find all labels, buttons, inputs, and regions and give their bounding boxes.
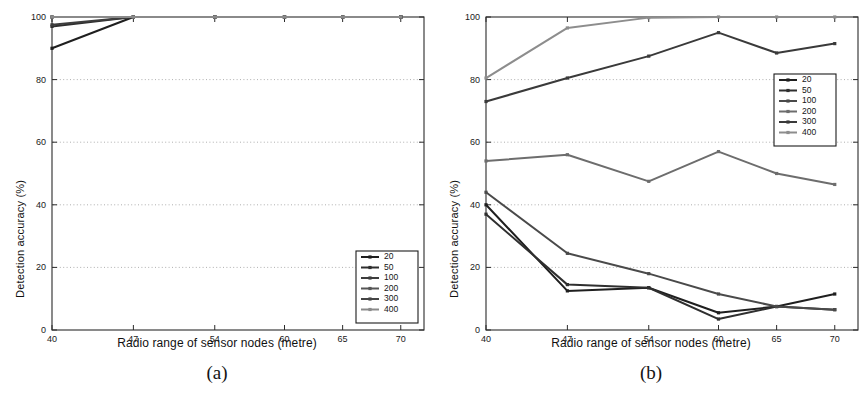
series-marker-200 (566, 153, 569, 156)
series-marker-300 (566, 76, 569, 79)
series-marker-400 (132, 15, 135, 18)
series-marker-100 (484, 191, 487, 194)
figure-sheet: 0204060801004047546065702050100200300400… (0, 0, 868, 410)
panel-a-y-axis-label: Detection accuracy (%) (14, 180, 26, 298)
y-tick-label: 40 (470, 200, 480, 210)
series-line-400 (486, 17, 835, 78)
legend-marker-100 (368, 276, 371, 279)
panel-a-caption: (a) (0, 362, 434, 384)
series-marker-400 (399, 15, 402, 18)
y-tick-label: 80 (36, 75, 46, 85)
y-tick-label: 20 (470, 262, 480, 272)
legend-marker-400 (786, 131, 789, 134)
series-marker-400 (833, 15, 836, 18)
panel-a-chart: 0204060801004047546065702050100200300400 (0, 0, 434, 350)
legend-label-50: 50 (802, 85, 812, 95)
panel-a-plot-area: 0204060801004047546065702050100200300400 (0, 0, 434, 350)
series-marker-200 (775, 172, 778, 175)
legend-marker-50 (786, 89, 789, 92)
series-marker-50 (717, 317, 720, 320)
series-marker-20 (484, 203, 487, 206)
y-tick-label: 0 (41, 325, 46, 335)
series-marker-100 (50, 23, 53, 26)
y-tick-label: 80 (470, 75, 480, 85)
legend-label-20: 20 (384, 251, 394, 261)
y-tick-label: 40 (36, 200, 46, 210)
legend-marker-200 (368, 287, 371, 290)
legend-label-50: 50 (384, 262, 394, 272)
series-marker-100 (566, 252, 569, 255)
series-marker-100 (647, 272, 650, 275)
series-marker-200 (833, 183, 836, 186)
y-tick-label: 20 (36, 262, 46, 272)
y-tick-label: 0 (475, 325, 480, 335)
legend-marker-50 (368, 266, 371, 269)
series-line-20 (52, 17, 401, 48)
legend-label-200: 200 (802, 106, 816, 116)
series-marker-100 (833, 308, 836, 311)
series-marker-100 (775, 305, 778, 308)
legend-label-20: 20 (802, 74, 812, 84)
panel-b: 0204060801004047546065702050100200300400… (434, 0, 868, 410)
legend-marker-300 (786, 120, 789, 123)
series-marker-400 (566, 26, 569, 29)
panel-b-y-axis-label: Detection accuracy (%) (448, 180, 460, 298)
panel-a: 0204060801004047546065702050100200300400… (0, 0, 434, 410)
series-marker-200 (484, 159, 487, 162)
series-marker-20 (50, 47, 53, 50)
series-marker-400 (717, 15, 720, 18)
legend-label-100: 100 (802, 95, 816, 105)
legend-marker-400 (368, 308, 371, 311)
legend-label-400: 400 (802, 127, 816, 137)
series-marker-200 (647, 180, 650, 183)
series-line-50 (486, 214, 835, 319)
series-marker-200 (717, 150, 720, 153)
series-marker-300 (647, 55, 650, 58)
legend-label-100: 100 (384, 272, 398, 282)
series-marker-300 (775, 51, 778, 54)
series-marker-400 (213, 15, 216, 18)
series-marker-300 (833, 42, 836, 45)
series-marker-20 (566, 289, 569, 292)
legend[interactable]: 2050100200300400 (774, 74, 836, 146)
series-marker-400 (484, 76, 487, 79)
y-tick-label: 100 (31, 12, 46, 22)
legend-marker-300 (368, 297, 371, 300)
panel-b-chart: 0204060801004047546065702050100200300400 (434, 0, 868, 350)
y-tick-label: 60 (470, 137, 480, 147)
legend-label-400: 400 (384, 304, 398, 314)
series-marker-50 (566, 283, 569, 286)
series-marker-400 (341, 15, 344, 18)
series-marker-300 (484, 100, 487, 103)
series-marker-400 (775, 15, 778, 18)
legend-marker-200 (786, 110, 789, 113)
series-marker-400 (283, 15, 286, 18)
panel-b-x-axis-label: Radio range of sensor nodes (metre) (434, 336, 868, 350)
series-marker-20 (833, 292, 836, 295)
panel-b-plot-area: 0204060801004047546065702050100200300400 (434, 0, 868, 350)
series-line-200 (486, 152, 835, 185)
y-tick-label: 100 (465, 12, 480, 22)
series-marker-400 (647, 16, 650, 19)
series-line-50 (52, 17, 401, 26)
legend-marker-20 (368, 255, 371, 258)
series-marker-400 (50, 15, 53, 18)
legend-marker-20 (786, 78, 789, 81)
series-marker-50 (647, 286, 650, 289)
legend-marker-100 (786, 99, 789, 102)
panel-a-x-axis-label: Radio range of sensor nodes (metre) (0, 336, 434, 350)
panel-b-caption: (b) (434, 362, 868, 384)
series-marker-50 (484, 213, 487, 216)
legend-label-300: 300 (802, 116, 816, 126)
series-marker-100 (717, 292, 720, 295)
y-tick-label: 60 (36, 137, 46, 147)
legend[interactable]: 2050100200300400 (356, 251, 418, 323)
legend-label-300: 300 (384, 293, 398, 303)
series-marker-20 (717, 311, 720, 314)
series-marker-300 (717, 31, 720, 34)
legend-label-200: 200 (384, 283, 398, 293)
plot-frame (486, 17, 858, 330)
